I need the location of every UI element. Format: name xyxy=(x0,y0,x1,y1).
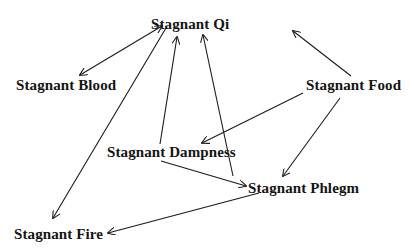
edge-dampness-phlegm xyxy=(161,161,246,186)
edge-food-qi xyxy=(293,31,351,76)
node-stagnant-qi: Stagnant Qi xyxy=(151,16,229,32)
node-stagnant-blood: Stagnant Blood xyxy=(16,77,116,93)
edge-dampness-qi xyxy=(160,37,177,144)
edge-food-phlegm xyxy=(283,98,340,176)
node-stagnant-fire: Stagnant Fire xyxy=(14,226,103,242)
edge-qi-fire xyxy=(53,28,166,218)
edge-qi-blood xyxy=(80,26,162,75)
node-stagnant-phlegm: Stagnant Phlegm xyxy=(248,180,359,196)
node-stagnant-dampness: Stagnant Dampness xyxy=(107,144,236,160)
diagram-edges xyxy=(0,0,414,252)
node-stagnant-food: Stagnant Food xyxy=(306,77,401,93)
diagram-canvas: Stagnant Qi Stagnant Blood Stagnant Food… xyxy=(0,0,414,252)
edge-phlegm-fire xyxy=(108,193,259,233)
